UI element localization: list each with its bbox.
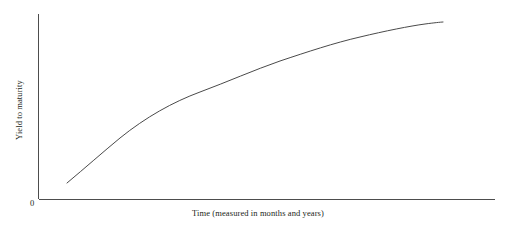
y-axis-label: Yield to maturity [14,79,24,139]
yield-curve-figure: 0 Time (measured in months and years) Yi… [0,0,508,228]
chart-canvas: 0 Time (measured in months and years) Yi… [0,0,508,228]
origin-label: 0 [30,198,34,208]
x-axis-label: Time (measured in months and years) [192,208,324,218]
yield-curve-path [67,22,443,183]
